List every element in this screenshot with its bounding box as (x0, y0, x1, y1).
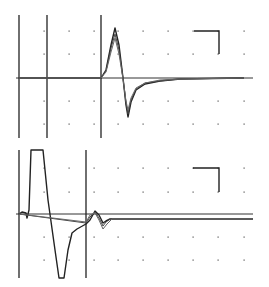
scale-bar (193, 168, 219, 192)
waveform-trace (19, 213, 253, 229)
bottom-trace-plot (0, 0, 269, 287)
bottom-trace-panel (0, 0, 269, 287)
